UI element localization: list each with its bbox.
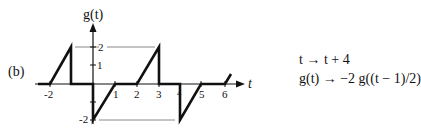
y-axis-arrow-icon	[90, 23, 97, 32]
x-tick-label-5: 5	[199, 89, 205, 100]
y-axis-label: g(t)	[83, 8, 103, 22]
panel-label: (b)	[8, 65, 24, 79]
equation-time-shift: t → t + 4	[299, 53, 350, 67]
y-tick-label-1: 1	[97, 60, 103, 71]
x-tick-label-3: 3	[156, 89, 162, 100]
equation-amplitude-scale: g(t) → −2 g((t − 1)/2)	[299, 72, 421, 86]
x-tick-label-neg2: -2	[44, 89, 53, 100]
x-tick-label-1: 1	[113, 89, 119, 100]
x-axis-label: t	[248, 77, 252, 91]
y-tick-label-2: 2	[98, 42, 104, 53]
x-tick-label-6: 6	[222, 89, 228, 100]
x-tick-label-2: 2	[134, 89, 140, 100]
y-tick-label-neg2: -2	[79, 114, 88, 125]
x-axis-arrow-icon	[236, 81, 245, 88]
x-tick-label-4: 4	[177, 89, 182, 98]
